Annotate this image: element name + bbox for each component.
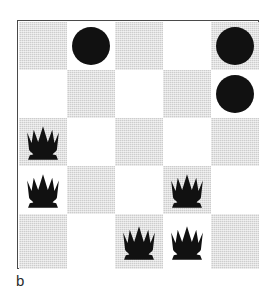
board-square-r1c3[interactable] [115, 22, 163, 70]
crown-piece [21, 121, 65, 165]
board-square-r3c1[interactable] [19, 118, 67, 166]
disc-piece [72, 27, 110, 65]
crown-piece [21, 169, 65, 213]
board-square-r4c4[interactable] [163, 166, 211, 214]
crown-piece [165, 221, 209, 265]
board-square-r1c4[interactable] [163, 22, 211, 70]
board-square-r4c1[interactable] [19, 166, 67, 214]
crown-piece [165, 169, 209, 213]
board-square-r4c3[interactable] [115, 166, 163, 214]
board-square-r5c4[interactable] [163, 214, 211, 269]
disc-piece [216, 27, 254, 65]
figure-panel: b [0, 0, 277, 294]
disc-piece [216, 75, 254, 113]
board-square-r3c3[interactable] [115, 118, 163, 166]
board-square-r3c2[interactable] [67, 118, 115, 166]
board-square-r3c5[interactable] [211, 118, 259, 166]
chessboard [17, 20, 259, 269]
board-square-r1c2[interactable] [67, 22, 115, 70]
board-square-r1c1[interactable] [19, 22, 67, 70]
board-square-r5c5[interactable] [211, 214, 259, 269]
board-square-r4c2[interactable] [67, 166, 115, 214]
board-square-r2c3[interactable] [115, 70, 163, 118]
board-square-r4c5[interactable] [211, 166, 259, 214]
board-square-r2c1[interactable] [19, 70, 67, 118]
board-square-r2c4[interactable] [163, 70, 211, 118]
board-square-r2c5[interactable] [211, 70, 259, 118]
board-square-r2c2[interactable] [67, 70, 115, 118]
board-grid [19, 22, 259, 269]
board-square-r5c1[interactable] [19, 214, 67, 269]
crown-piece [117, 221, 161, 265]
figure-caption: b [16, 272, 24, 290]
board-square-r5c2[interactable] [67, 214, 115, 269]
board-square-r5c3[interactable] [115, 214, 163, 269]
board-square-r1c5[interactable] [211, 22, 259, 70]
board-square-r3c4[interactable] [163, 118, 211, 166]
